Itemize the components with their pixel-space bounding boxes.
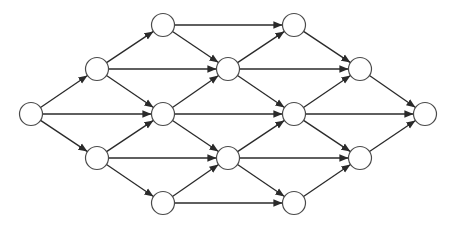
edge-b2-to-c2 [107,120,154,151]
node-e1 [283,14,306,37]
edge-c2-to-d2 [173,120,219,151]
edge-b1-to-c1 [107,31,154,62]
edge-b2-to-c3 [107,164,154,196]
edge-c1-to-d1 [173,31,219,62]
node-a [20,103,43,126]
edge-e2-to-f2 [304,120,351,151]
node-b1 [86,58,109,81]
node-d1 [217,58,240,81]
edge-e1-to-f1 [304,31,351,62]
edge-e3-to-f2 [304,164,351,196]
node-g [414,103,437,126]
edge-c2-to-d1 [172,76,218,108]
node-d2 [217,147,240,170]
lattice-graph-diagram [0,0,453,227]
node-b2 [86,147,109,170]
node-c1 [152,14,175,37]
node-c2 [152,103,175,126]
node-f1 [349,58,372,81]
edge-b1-to-c2 [107,75,154,107]
node-f2 [349,147,372,170]
edges-layer [41,25,416,203]
edge-f1-to-g [369,76,415,108]
edge-d2-to-e3 [238,164,285,196]
edge-c3-to-d2 [172,165,218,197]
edge-e2-to-f1 [304,75,351,107]
node-e3 [283,192,306,215]
edge-a-to-b2 [41,120,88,151]
edge-a-to-b1 [41,75,88,107]
edge-d2-to-e2 [238,120,285,151]
edge-d1-to-e1 [238,31,285,62]
edge-f2-to-g [370,120,416,151]
edge-d1-to-e2 [238,75,285,107]
node-c3 [152,192,175,215]
node-e2 [283,103,306,126]
